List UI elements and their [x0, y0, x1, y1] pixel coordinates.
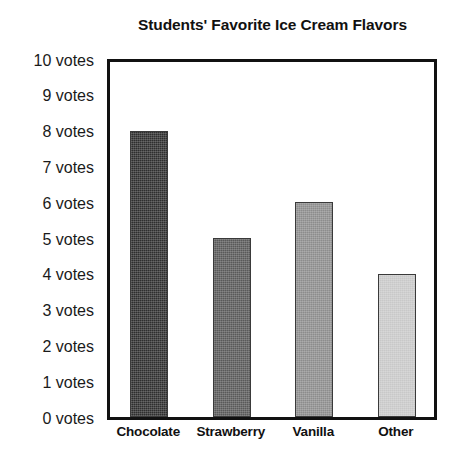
y-tick-label: 6 votes	[42, 193, 94, 215]
y-tick-label: 2 votes	[42, 336, 94, 358]
x-tick-label-chocolate: Chocolate	[107, 424, 190, 439]
chart-title: Students' Favorite Ice Cream Flavors	[107, 16, 438, 34]
bar-chocolate	[130, 131, 168, 417]
y-axis: 0 votes1 votes2 votes3 votes4 votes5 vot…	[0, 59, 107, 420]
y-tick-label: 9 votes	[42, 85, 94, 107]
bar-vanilla	[295, 202, 333, 417]
y-tick-label: 8 votes	[42, 121, 94, 143]
y-tick-label: 0 votes	[42, 408, 94, 430]
bar-other	[378, 274, 416, 417]
bar-strawberry	[213, 238, 251, 417]
x-tick-label-strawberry: Strawberry	[190, 424, 273, 439]
y-tick-label: 3 votes	[42, 300, 94, 322]
x-tick-label-vanilla: Vanilla	[272, 424, 355, 439]
y-tick-label: 7 votes	[42, 157, 94, 179]
y-tick-label: 4 votes	[42, 264, 94, 286]
y-tick-label: 1 votes	[42, 372, 94, 394]
bars-layer	[107, 59, 437, 420]
y-tick-label: 10 votes	[34, 50, 94, 72]
x-axis: ChocolateStrawberryVanillaOther	[107, 424, 437, 452]
y-tick-label: 5 votes	[42, 229, 94, 251]
x-tick-label-other: Other	[355, 424, 438, 439]
bar-chart: Students' Favorite Ice Cream Flavors 0 v…	[0, 0, 459, 464]
